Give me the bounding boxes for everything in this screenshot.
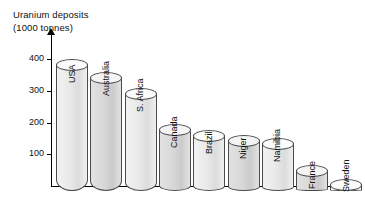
chart-subtitle-units: (1000 tonnes) [13,22,73,33]
category-label: Brazil [204,132,214,155]
bar-body [56,64,88,191]
category-label: Canada [169,117,179,149]
chart-title: Uranium deposits [13,9,89,20]
category-label: Sweden [341,159,351,192]
uranium-deposits-chart: Uranium deposits (1000 tonnes) 400300200… [0,0,365,206]
category-label: Niger [238,138,248,160]
category-label: France [307,161,317,189]
y-tick-mark [47,91,52,92]
y-tick-mark [47,154,52,155]
y-tick-mark [47,59,52,60]
category-label: USA [67,64,77,83]
y-tick-label: 200 [16,117,44,127]
category-label: S. Africa [135,78,145,112]
y-tick-label: 300 [16,85,44,95]
category-label: Namibia [272,129,282,162]
category-label: Australia [101,61,111,96]
y-tick-label: 100 [16,148,44,158]
y-tick-mark [47,123,52,124]
y-axis-line [51,33,52,187]
y-tick-label: 400 [16,53,44,63]
